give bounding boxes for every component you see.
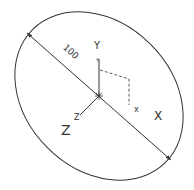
dimension-label: 100 bbox=[61, 42, 81, 61]
x-axis-small-label: x bbox=[134, 105, 139, 114]
x-axis-label: X bbox=[154, 109, 162, 123]
z-axis-small-label: Z bbox=[74, 113, 80, 122]
origin-marker bbox=[95, 92, 103, 100]
y-axis-label: Y bbox=[93, 40, 101, 51]
z-axis-label: Z bbox=[61, 122, 71, 138]
dashed-projection bbox=[100, 70, 129, 105]
ellipse-diagram: 100 Y Y x X Z Z bbox=[0, 0, 194, 190]
